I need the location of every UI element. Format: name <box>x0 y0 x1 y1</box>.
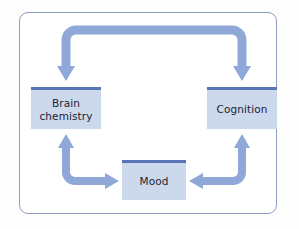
arrowhead-up-cognition <box>234 134 250 148</box>
connector-bottom-right-elbow <box>189 134 250 189</box>
diagram-root: Brainchemistry Cognition Mood <box>0 0 299 229</box>
arrowhead-down-cognition <box>233 66 251 81</box>
node-mood[interactable]: Mood <box>122 160 186 200</box>
node-brain-chemistry[interactable]: Brainchemistry <box>31 87 101 129</box>
arrowhead-up-brain-chemistry <box>58 134 74 148</box>
connector-top-bracket <box>57 30 251 81</box>
connector-bottom-left-elbow <box>58 134 119 189</box>
arrowhead-left-mood <box>189 173 203 189</box>
node-cognition-label: Cognition <box>213 103 270 115</box>
node-cognition[interactable]: Cognition <box>207 87 277 129</box>
node-mood-label: Mood <box>137 175 172 187</box>
arrowhead-down-brain-chemistry <box>57 66 75 81</box>
node-brain-chemistry-label: Brainchemistry <box>36 97 95 122</box>
arrowhead-right-mood <box>105 173 119 189</box>
